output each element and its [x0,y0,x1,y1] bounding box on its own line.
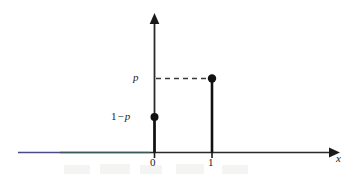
x-tick-label-0: 0 [150,157,156,168]
scan-artifact [176,164,204,174]
probability-label-one-minus-p: 1−p [111,111,130,122]
y-axis-arrowhead [150,13,160,24]
scan-artifact [100,164,130,174]
x-tick-label-1: 1 [208,157,214,168]
one-minus-p-p: p [125,110,131,122]
probability-label-p: p [133,72,139,83]
one-minus-p-minus: − [117,110,125,122]
marker-x1 [208,74,216,82]
pmf-plot [0,0,352,179]
x-axis-label: x [336,153,341,164]
bernoulli-pmf-figure: 0 1 p 1−p x [0,0,352,179]
scan-artifact [222,165,248,174]
scan-artifact [64,165,90,174]
marker-x0 [151,113,159,121]
one-minus-p-one: 1 [111,110,117,122]
